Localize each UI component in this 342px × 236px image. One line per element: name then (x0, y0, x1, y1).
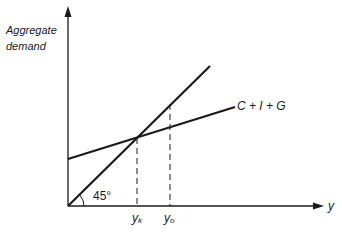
y-axis-label-line1: Aggregate (5, 24, 57, 36)
y-axis-arrow-icon (65, 6, 72, 17)
tick-label-yk: yk (131, 211, 143, 225)
angle-45-label: 45° (93, 189, 111, 203)
aggregate-line-label: C + I + G (237, 99, 286, 113)
tick-label-yo: yo (163, 211, 175, 225)
keynesian-cross-diagram: Aggregate demand y 45° C + I + G yk yo (0, 0, 342, 236)
angle-arc (80, 195, 85, 206)
y-axis-label-line2: demand (6, 40, 47, 52)
x-axis-label: y (327, 199, 335, 213)
diagram-canvas: Aggregate demand y 45° C + I + G yk yo (0, 0, 342, 236)
aggregate-expenditure-line (68, 107, 235, 159)
x-axis-arrow-icon (313, 203, 324, 210)
